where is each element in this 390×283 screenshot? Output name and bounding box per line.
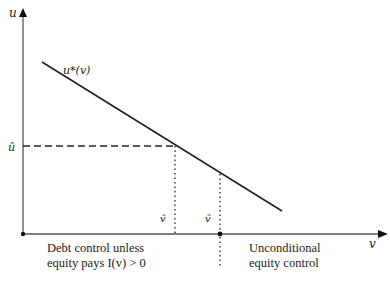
curve-label: u*(v) (63, 64, 90, 77)
origin-dot (21, 232, 25, 236)
y-axis-arrow-icon (19, 8, 27, 17)
right-region-line2: equity control (249, 256, 319, 270)
curve-u-star (42, 62, 282, 211)
v-hat-label: v̂ (160, 213, 166, 224)
y-axis-label: u (9, 6, 17, 20)
x-axis-arrow-icon (378, 230, 388, 238)
u-hat-label: û (8, 141, 15, 154)
v-tilde-label: ṽ (205, 213, 211, 224)
diagram-canvas: u v u*(v) û v̂ ṽ Debt control unless equ… (0, 0, 390, 283)
v-tilde-dot (218, 232, 223, 237)
left-region-line2: equity pays I(v) > 0 (47, 256, 146, 270)
left-region-line1: Debt control unless (47, 241, 144, 255)
right-region-line1: Unconditional (249, 241, 321, 255)
x-axis-label: v (369, 237, 376, 251)
